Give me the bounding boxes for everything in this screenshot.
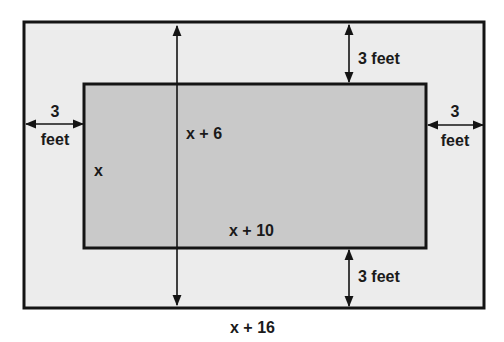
left-gap-number: 3 — [51, 103, 60, 120]
bottom-gap-label: 3 feet — [358, 268, 400, 285]
diagram-canvas: 3 feet 3 feet 3 feet 3 feet x + 6 x x + … — [0, 0, 504, 342]
top-gap-label: 3 feet — [358, 50, 400, 67]
right-gap-number: 3 — [451, 103, 460, 120]
inner-height-label: x — [94, 162, 103, 179]
outer-height-label: x + 6 — [186, 125, 222, 142]
inner-width-label: x + 10 — [229, 222, 274, 239]
right-gap-unit: feet — [441, 132, 470, 149]
outer-width-label: x + 16 — [230, 319, 275, 336]
left-gap-unit: feet — [41, 131, 70, 148]
